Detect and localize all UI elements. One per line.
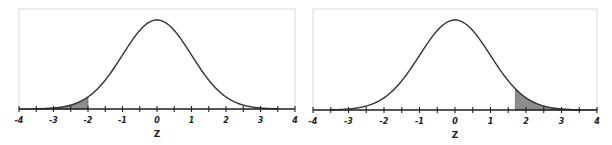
x-axis-title: Z bbox=[452, 130, 459, 140]
x-tick-label: 1 bbox=[488, 117, 494, 126]
x-tick-label: 2 bbox=[223, 116, 229, 125]
normal-density-curve bbox=[36, 20, 278, 109]
x-tick-label: 0 bbox=[154, 116, 160, 125]
normal-curve-plot-left: -4-3-2-101234Z bbox=[0, 0, 306, 145]
normal-curve-plot-right: -4-3-2-101234Z bbox=[306, 0, 612, 145]
x-tick-label: 4 bbox=[593, 117, 600, 126]
x-tick-label: 4 bbox=[291, 116, 298, 125]
x-tick-label: -1 bbox=[118, 116, 127, 125]
x-tick-label: 0 bbox=[452, 117, 458, 126]
chart-left-tail: -4-3-2-101234Z bbox=[0, 0, 306, 145]
x-tick-label: -3 bbox=[49, 116, 58, 125]
x-tick-label: -1 bbox=[415, 117, 424, 126]
normal-density-curve bbox=[331, 20, 580, 110]
chart-right-tail: -4-3-2-101234Z bbox=[306, 0, 612, 145]
x-axis-title: Z bbox=[154, 129, 161, 139]
x-tick-label: 3 bbox=[258, 116, 264, 125]
x-tick-label: -4 bbox=[15, 116, 24, 125]
plot-frame bbox=[19, 9, 295, 109]
x-tick-label: 3 bbox=[559, 117, 565, 126]
plot-frame bbox=[313, 9, 597, 110]
x-tick-label: 1 bbox=[189, 116, 195, 125]
x-tick-label: -2 bbox=[380, 117, 389, 126]
x-tick-label: -2 bbox=[84, 116, 93, 125]
x-tick-label: -3 bbox=[344, 117, 353, 126]
x-tick-label: -4 bbox=[309, 117, 318, 126]
x-tick-label: 2 bbox=[523, 117, 529, 126]
